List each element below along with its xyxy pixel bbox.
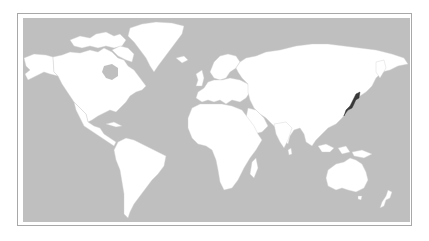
world-map xyxy=(0,0,429,241)
